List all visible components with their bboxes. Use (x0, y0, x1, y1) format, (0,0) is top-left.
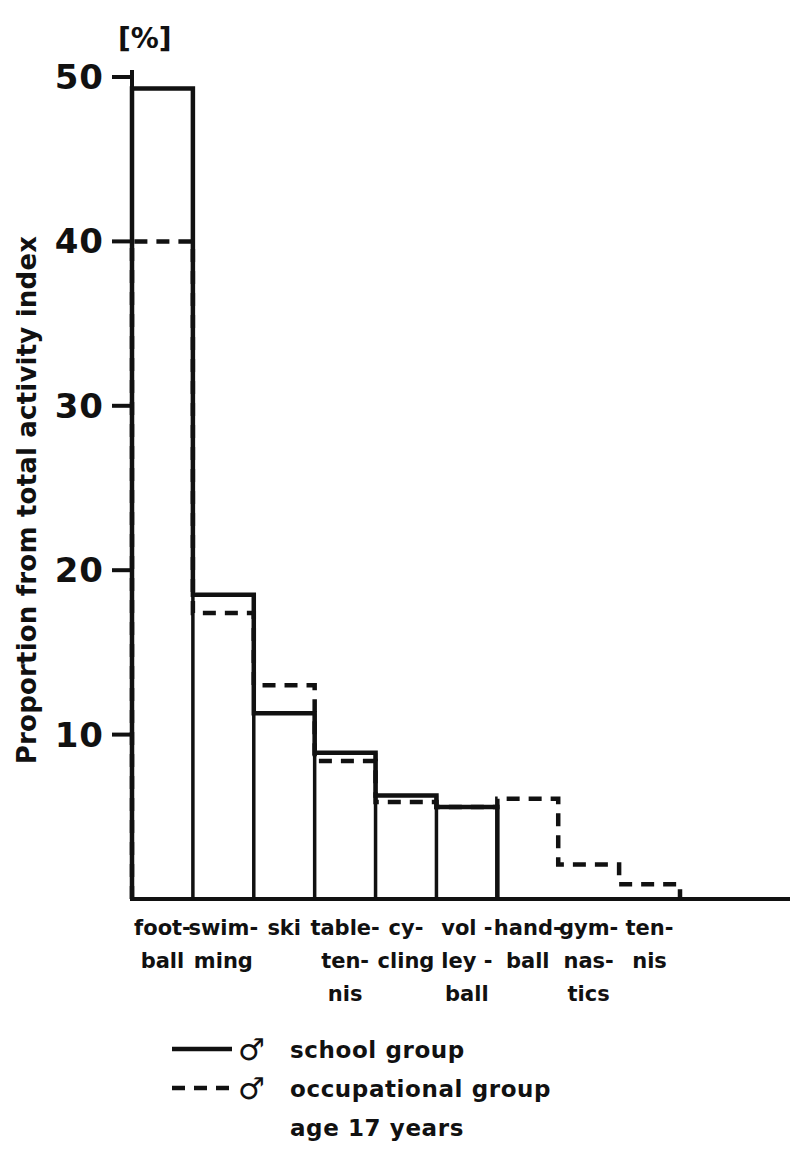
x-axis-category-label: swim- (188, 916, 258, 940)
y-axis: 1020304050 (55, 57, 132, 899)
y-tick-group: 1020304050 (55, 57, 132, 755)
x-axis-category-label: ball (141, 949, 185, 973)
y-tick-label: 30 (55, 386, 104, 426)
x-axis-category-label: gym- (559, 916, 618, 940)
x-axis-category-label: ball (506, 949, 550, 973)
y-tick-label: 10 (55, 715, 104, 755)
y-tick-label: 50 (55, 57, 104, 97)
y-tick-label: 40 (55, 221, 104, 261)
chart-legend: ♂ school group ♂ occupational group age … (172, 1032, 551, 1141)
x-axis-category-label: nas- (563, 949, 613, 973)
bar-divider-group (132, 89, 497, 899)
x-axis-category-label: tics (568, 982, 610, 1006)
x-axis-category-label: cling (378, 949, 435, 973)
x-axis-category-label: ball (445, 982, 489, 1006)
x-axis-category-label: foot- (134, 916, 191, 940)
y-tick-label: 20 (55, 550, 104, 590)
legend-entry-school-group-label: school group (290, 1037, 465, 1063)
x-axis-category-label: ming (194, 949, 253, 973)
legend-age-note: age 17 years (290, 1115, 464, 1141)
bar-chart: [%] Proportion from total activity index… (0, 0, 806, 1161)
legend-entry-occupational-group-label: occupational group (290, 1076, 551, 1102)
x-axis-category-label: ten- (626, 916, 674, 940)
y-axis-unit-label: [%] (118, 22, 172, 55)
x-axis-category-label: ley - (441, 949, 492, 973)
x-axis-category-labels: foot-ballswim-mingskitable-ten-niscy-cli… (134, 916, 673, 1006)
y-axis-title: Proportion from total activity index (12, 236, 42, 764)
x-axis-category-label: ski (267, 916, 301, 940)
chart-container: [%] Proportion from total activity index… (0, 0, 806, 1161)
x-axis-category-label: ten- (321, 949, 369, 973)
male-symbol-icon: ♂ (238, 1071, 265, 1106)
x-axis-category-label: cy- (389, 916, 424, 940)
male-symbol-icon: ♂ (238, 1032, 265, 1067)
x-axis-category-label: hand- (494, 916, 562, 940)
x-axis-category-label: nis (328, 982, 363, 1006)
x-axis-category-label: table- (310, 916, 379, 940)
x-axis-category-label: vol - (441, 916, 492, 940)
series-occupational-group (132, 241, 680, 899)
x-axis-category-label: nis (632, 949, 667, 973)
